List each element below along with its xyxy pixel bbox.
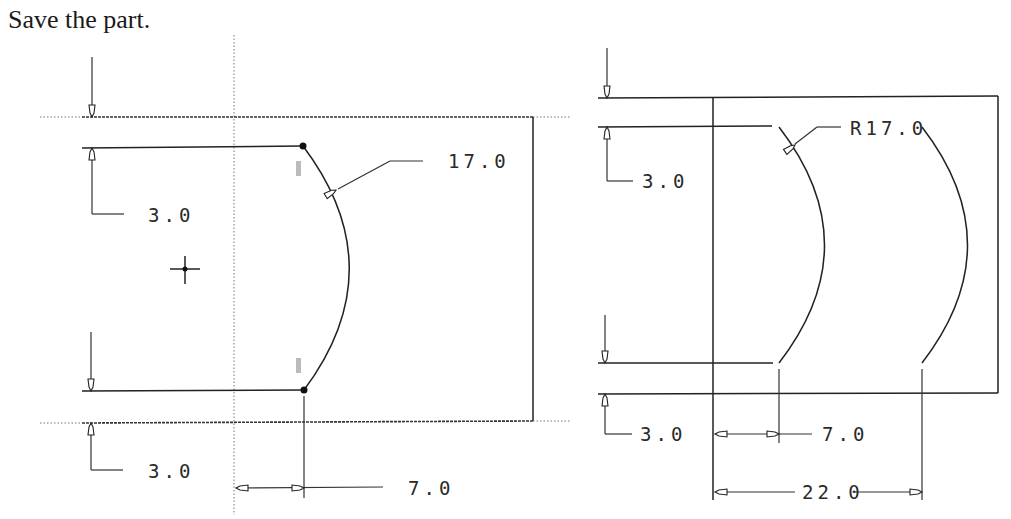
dimension-arrow-icon xyxy=(89,148,95,160)
dimension-arrow-icon xyxy=(604,86,610,98)
dimension-arrow-icon xyxy=(292,485,304,491)
upper-sketch-line xyxy=(598,126,772,127)
dimension-arrow-icon xyxy=(236,485,248,491)
rectangle-top-edge xyxy=(598,96,998,98)
right-top-offset-dim: 3.0 xyxy=(642,170,688,192)
cad-sketch-figure: 3.0 3.0 17.0 7.0 xyxy=(0,0,1011,519)
dimension-arrow-icon xyxy=(88,423,94,435)
arc-start-point xyxy=(300,143,307,150)
right-overall-offset-dim: 22.0 xyxy=(802,481,864,503)
dimension-arrow-icon xyxy=(767,431,779,437)
left-horizontal-offset-dim: 7.0 xyxy=(408,477,454,499)
right-arc-radius-dim: R17.0 xyxy=(850,117,927,139)
upper-sketch-line xyxy=(82,146,302,148)
dimension-arrow-icon xyxy=(602,394,608,406)
right-horizontal-offset-dim: 7.0 xyxy=(822,423,868,445)
origin-crosshair-icon xyxy=(170,256,200,284)
sketch-arc xyxy=(303,146,349,390)
dimension-arrow-icon xyxy=(715,431,727,437)
left-sketch: 3.0 3.0 17.0 7.0 xyxy=(40,35,570,515)
dimension-arrow-icon xyxy=(88,379,94,391)
rectangle-bottom-edge xyxy=(598,393,998,394)
constraint-marker xyxy=(296,358,301,373)
right-sketch: 3.0 3.0 R17.0 7.0 22.0 xyxy=(598,48,998,503)
dimension-arrow-icon xyxy=(604,127,610,139)
sketch-arc-1 xyxy=(779,127,825,363)
rectangle-bottom-edge xyxy=(82,421,533,423)
dimension-arrow-icon xyxy=(715,489,727,495)
leader-arrow-icon xyxy=(324,187,337,198)
left-top-offset-dim: 3.0 xyxy=(148,204,194,226)
sketch-arc-2 xyxy=(922,127,968,363)
dimension-arrow-icon xyxy=(910,489,922,495)
constraint-marker xyxy=(296,161,301,176)
dimension-arrow-icon xyxy=(602,351,608,363)
lower-sketch-line xyxy=(82,390,302,391)
left-bottom-offset-dim: 3.0 xyxy=(148,460,194,482)
right-bottom-offset-dim: 3.0 xyxy=(640,423,686,445)
arc-end-point xyxy=(301,387,308,394)
left-arc-radius-dim: 17.0 xyxy=(448,150,510,172)
dimension-arrow-icon xyxy=(89,105,95,117)
